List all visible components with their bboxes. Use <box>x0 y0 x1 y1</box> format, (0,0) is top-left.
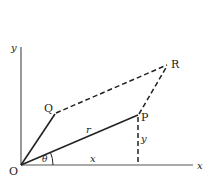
label-p: P <box>141 111 149 124</box>
label-r: R <box>171 58 180 71</box>
y-length-label: y <box>140 133 147 144</box>
theta-label: θ <box>42 154 48 164</box>
label-q: Q <box>44 102 53 115</box>
y-axis-label: y <box>10 42 17 53</box>
vector-addition-diagram: O P Q R y x r x y θ <box>0 0 215 185</box>
x-axis-label: x <box>197 160 203 171</box>
r-label: r <box>86 124 92 135</box>
theta-arc <box>51 153 54 166</box>
x-length-label: x <box>90 153 96 164</box>
label-o: O <box>9 165 18 178</box>
dashed-qr <box>56 65 167 113</box>
dashed-pr <box>139 66 167 114</box>
